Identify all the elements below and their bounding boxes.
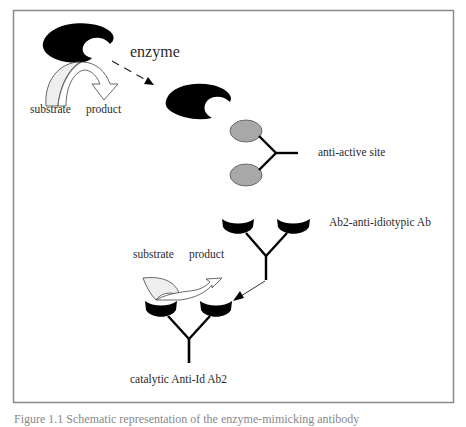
enzyme-label: enzyme — [130, 44, 180, 60]
ab2-label: Ab2-anti-idiotypic Ab — [329, 217, 431, 229]
product-label-bottom: product — [189, 249, 224, 261]
figure-caption: Figure 1.1 Schematic representation of t… — [14, 412, 359, 427]
substrate-label-top: substrate — [30, 104, 71, 116]
anti-active-site-label: anti-active site — [318, 147, 385, 159]
catalytic-label: catalytic Anti-Id Ab2 — [130, 374, 227, 386]
substrate-label-bottom: substrate — [133, 249, 174, 261]
product-label-top: product — [86, 104, 121, 116]
